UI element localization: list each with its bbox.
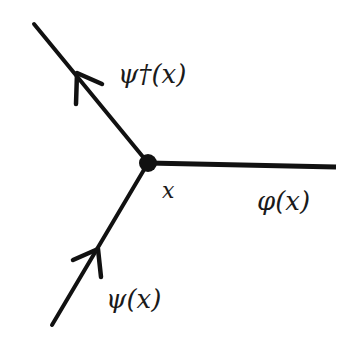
- phi-line: [148, 163, 336, 167]
- vertex-dot: [139, 154, 157, 172]
- psi-dagger-line: [34, 24, 148, 163]
- psi-label: ψ(x): [106, 284, 161, 314]
- psi-dagger-label: ψ†(x): [118, 59, 186, 89]
- phi-label: φ(x): [257, 186, 310, 216]
- vertex-label: x: [162, 178, 175, 203]
- feynman-diagram: ψ†(x) x φ(x) ψ(x): [0, 0, 364, 355]
